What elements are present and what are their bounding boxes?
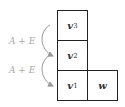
arrow-v3-to-v2 [42,25,53,56]
arrows-layer [0,0,125,107]
arrow-label-2: A + E [9,65,35,75]
arrow-v2-to-v1 [42,55,53,86]
arrow-label-1: A + E [9,36,35,46]
